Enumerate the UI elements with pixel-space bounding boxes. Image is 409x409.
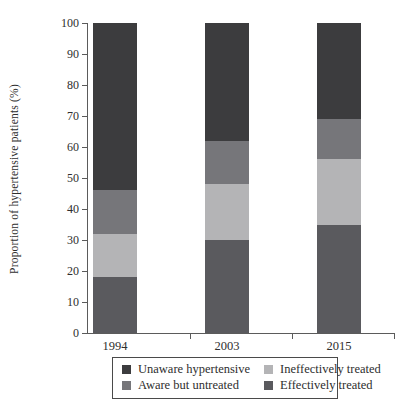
y-axis-tick-mark (82, 54, 87, 55)
legend-item-ineffectively-treated: Ineffectively treated (264, 362, 381, 377)
y-axis-tick-mark (82, 116, 87, 117)
y-axis-tick-mark (82, 85, 87, 86)
x-axis-tick-label: 2015 (327, 339, 352, 354)
x-axis-tick-mark (292, 334, 293, 339)
legend-swatch-icon (122, 365, 131, 374)
stacked-bar-2015 (317, 23, 361, 333)
bar-segment (317, 225, 361, 334)
y-axis-line (87, 23, 88, 334)
y-axis-tick-label: 60 (41, 140, 79, 155)
legend-item-unaware-hypertensive: Unaware hypertensive (122, 362, 250, 377)
y-axis-title: Proportion of hypertensive patients (%) (8, 84, 20, 274)
y-axis-tick-label: 70 (41, 109, 79, 124)
legend-item-effectively-treated: Effectively treated (264, 378, 381, 393)
chart-figure: Proportion of hypertensive patients (%) … (0, 0, 409, 409)
legend-swatch-icon (122, 381, 131, 390)
stacked-bar-2003 (205, 23, 249, 333)
legend-swatch-icon (264, 365, 273, 374)
bar-segment (317, 119, 361, 159)
y-axis-tick-mark (82, 302, 87, 303)
y-axis-tick-mark (82, 178, 87, 179)
stacked-bar-1994 (93, 23, 137, 333)
x-axis-tick-label: 1994 (103, 339, 128, 354)
y-axis-tick-mark (82, 147, 87, 148)
bar-segment (205, 184, 249, 240)
bar-segment (93, 277, 137, 333)
y-axis-tick-label: 80 (41, 78, 79, 93)
y-axis-tick-label: 40 (41, 202, 79, 217)
y-axis-tick-mark (82, 240, 87, 241)
legend-swatch-icon (264, 381, 273, 390)
bar-segment (205, 240, 249, 333)
y-axis-tick-label: 30 (41, 233, 79, 248)
bar-segment (317, 23, 361, 119)
y-axis-tick-label: 100 (41, 16, 79, 31)
bar-segment (93, 234, 137, 277)
x-axis-tick-label: 2003 (215, 339, 240, 354)
legend-item-aware-but-untreated: Aware but untreated (122, 378, 250, 393)
bar-segment (205, 141, 249, 184)
y-axis-tick-label: 50 (41, 171, 79, 186)
y-axis-tick-mark (82, 271, 87, 272)
y-axis-tick-mark (82, 23, 87, 24)
x-axis-line (87, 333, 395, 334)
y-axis-tick-mark (82, 209, 87, 210)
bar-segment (317, 159, 361, 224)
y-axis-tick-mark (82, 333, 87, 334)
bar-segment (93, 23, 137, 190)
y-axis-tick-label: 10 (41, 295, 79, 310)
legend-label: Aware but untreated (138, 378, 239, 393)
y-axis-tick-label: 20 (41, 264, 79, 279)
legend-label: Unaware hypertensive (138, 362, 250, 377)
legend-label: Effectively treated (280, 378, 372, 393)
plot-area: 0102030405060708090100199420032015 (88, 23, 394, 333)
bar-segment (93, 190, 137, 233)
legend: Unaware hypertensive Ineffectively treat… (112, 357, 338, 399)
y-axis-tick-label: 90 (41, 47, 79, 62)
x-axis-tick-mark (190, 334, 191, 339)
legend-label: Ineffectively treated (280, 362, 381, 377)
x-axis-tick-mark (394, 334, 395, 339)
y-axis-tick-label: 0 (41, 326, 79, 341)
bar-segment (205, 23, 249, 141)
